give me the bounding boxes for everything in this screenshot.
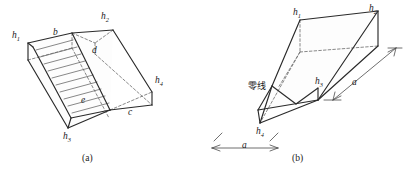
label-b-h1: h1 [293, 8, 301, 19]
label-b-h2: h2 [369, 4, 377, 15]
label-b-zero-line: 零线 [248, 82, 266, 91]
label-a-h1: h1 [12, 31, 20, 42]
label-a-e: e [81, 96, 85, 106]
label-b-h4: h4 [256, 127, 264, 138]
label-b-a-right: a [352, 78, 357, 88]
label-a-b: b [53, 28, 58, 38]
figure-a-drawing [0, 0, 200, 173]
figure-b-drawing [200, 0, 404, 173]
label-a-h2: h2 [101, 12, 109, 23]
label-a-h3: h3 [63, 132, 71, 143]
label-b-a-left: a [242, 141, 247, 151]
caption-b: (b) [292, 154, 303, 164]
label-b-h3: h3 [315, 77, 323, 88]
label-a-d: d [92, 46, 97, 56]
caption-a: (a) [82, 154, 93, 164]
label-a-c: c [128, 108, 132, 118]
label-a-h4: h4 [155, 76, 163, 87]
figure-root: h1 h2 h3 h4 b d e c (a) [0, 0, 404, 173]
